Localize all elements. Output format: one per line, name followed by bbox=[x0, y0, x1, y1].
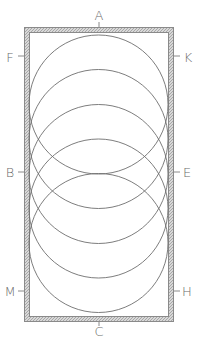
label-h: H bbox=[182, 285, 192, 298]
circle-5 bbox=[29, 174, 168, 313]
label-m: M bbox=[4, 285, 15, 298]
frame-inner-line bbox=[30, 33, 169, 317]
label-k: K bbox=[184, 51, 193, 64]
label-e: E bbox=[183, 166, 191, 179]
label-a: A bbox=[95, 9, 104, 22]
label-f: F bbox=[6, 51, 13, 64]
frame-outer-line bbox=[25, 28, 174, 322]
label-b: B bbox=[6, 166, 15, 179]
circles bbox=[29, 35, 168, 313]
label-c: C bbox=[94, 325, 103, 338]
circle-construction-diagram bbox=[0, 0, 199, 349]
